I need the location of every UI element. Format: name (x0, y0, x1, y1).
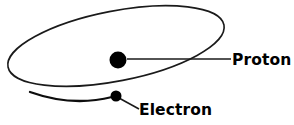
proton-dot (110, 52, 127, 69)
proton-label: Proton (232, 51, 291, 69)
electron-dot (111, 91, 122, 102)
atom-orbit-diagram: Proton Electron (0, 0, 294, 125)
diagram-canvas: Proton Electron (0, 0, 294, 125)
electron-label: Electron (139, 101, 212, 119)
